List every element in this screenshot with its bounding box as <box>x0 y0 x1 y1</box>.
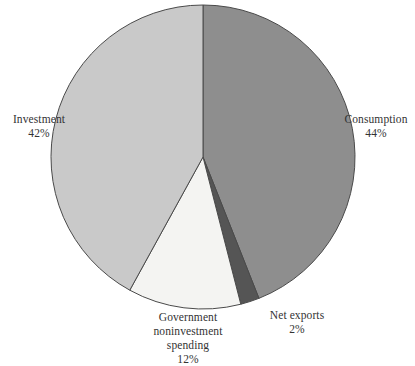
pie-label-consumption-name: Consumption <box>337 112 415 126</box>
pie-label-government: Government noninvestment spending 12% <box>113 310 263 366</box>
pie-label-investment-name: Investment <box>0 112 78 126</box>
pie-label-investment-value: 42% <box>0 126 78 140</box>
pie-label-consumption-value: 44% <box>337 126 415 140</box>
pie-label-government-value: 12% <box>113 352 263 366</box>
pie-label-investment: Investment 42% <box>0 112 78 140</box>
pie-label-net-exports-name: Net exports <box>242 308 352 322</box>
pie-label-net-exports: Net exports 2% <box>242 308 352 336</box>
pie-label-net-exports-value: 2% <box>242 322 352 336</box>
pie-label-consumption: Consumption 44% <box>337 112 415 140</box>
pie-label-government-line3: spending <box>113 338 263 352</box>
pie-label-government-line1: Government <box>113 310 263 324</box>
pie-slices <box>51 5 355 309</box>
pie-label-government-line2: noninvestment <box>113 324 263 338</box>
